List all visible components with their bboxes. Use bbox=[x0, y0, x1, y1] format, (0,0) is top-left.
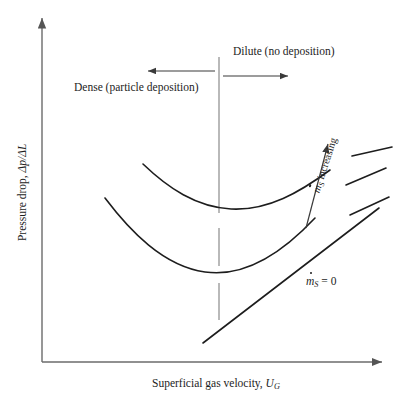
ms-zero-label: mS = 0 bbox=[306, 275, 336, 289]
curve-low-flux bbox=[105, 198, 315, 273]
figure-canvas: Dense (particle deposition) Dilute (no d… bbox=[0, 0, 407, 405]
dilute-region-label: Dilute (no deposition) bbox=[233, 45, 335, 58]
x-axis-symbol: U bbox=[266, 377, 274, 389]
y-axis-label: Pressure drop, Δp/ΔL bbox=[16, 132, 29, 252]
dense-region-label: Dense (particle deposition) bbox=[74, 81, 199, 94]
x-axis-subscript: G bbox=[274, 382, 280, 391]
y-axis-label-text: Pressure drop, bbox=[16, 172, 28, 241]
curve-high-flux bbox=[143, 164, 330, 209]
ms-zero-symbol: m bbox=[306, 275, 314, 288]
y-axis-symbol: Δp/ΔL bbox=[16, 144, 28, 173]
x-axis-label: Superficial gas velocity, UG bbox=[152, 377, 280, 391]
ms-zero-text: = 0 bbox=[318, 275, 336, 287]
x-axis-label-text: Superficial gas velocity, bbox=[152, 377, 266, 389]
chart-svg bbox=[0, 0, 407, 405]
curve-zero-flux bbox=[203, 208, 379, 343]
curve-continuation-segments bbox=[346, 147, 392, 215]
